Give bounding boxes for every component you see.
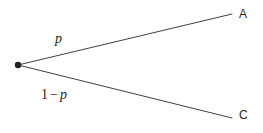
probability-branch-diagram: p 1−p A C [0,0,263,133]
node-label-a: A [239,8,247,20]
decision-node-dot [15,62,21,68]
branch-label-upper: p [55,32,62,46]
node-label-c: C [239,109,248,121]
branch-lines-canvas [0,0,263,133]
branch-line-upper [18,14,232,65]
branch-label-lower-variable: p [60,87,67,102]
branch-label-lower-number: 1 [41,87,48,102]
branch-label-lower: 1−p [41,88,67,102]
minus-sign-glyph: − [50,87,58,102]
